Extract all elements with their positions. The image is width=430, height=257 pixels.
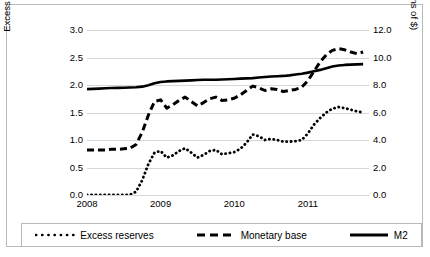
y-axis-right-tick-label: 4.0 xyxy=(373,135,413,145)
chart-frame: Excess reserves and monetary base (trill… xyxy=(6,4,423,247)
y-axis-right-ticks: 0.02.04.06.08.010.012.0 xyxy=(373,30,417,195)
legend-item-monetary-base: Monetary base xyxy=(196,230,307,241)
y-axis-right-tick-label: 8.0 xyxy=(373,80,413,90)
y-axis-left-title-text: Excess reserves and monetary base (trill… xyxy=(1,0,25,35)
chart-legend: Excess reserves Monetary base M2 xyxy=(21,223,422,247)
gridline xyxy=(87,195,369,196)
y-axis-left-tick-label: 1.0 xyxy=(43,135,83,145)
series-line-m2 xyxy=(87,64,363,89)
legend-label-excess-reserves: Excess reserves xyxy=(80,230,153,241)
legend-item-excess-reserves: Excess reserves xyxy=(35,230,153,241)
y-axis-left-tick-label: 2.0 xyxy=(43,80,83,90)
legend-item-m2: M2 xyxy=(349,230,408,241)
legend-key-solid-icon xyxy=(349,231,389,239)
chart-figure: Excess reserves and monetary base (trill… xyxy=(0,0,430,257)
y-axis-left-tick-label: 1.5 xyxy=(43,108,83,118)
legend-label-m2: M2 xyxy=(394,230,408,241)
plot-area xyxy=(87,30,369,195)
series-line-excess-reserves xyxy=(87,107,363,195)
series-canvas xyxy=(87,30,369,195)
legend-key-dashed-icon xyxy=(196,231,236,239)
series-line-monetary-base xyxy=(87,49,363,150)
x-axis-tick-label: 2008 xyxy=(57,198,117,209)
y-axis-right-tick-label: 12.0 xyxy=(373,25,413,35)
legend-key-dotted-icon xyxy=(35,231,75,239)
y-axis-left-tick-label: 0.5 xyxy=(43,163,83,173)
y-axis-left-title: Excess reserves and monetary base (trill… xyxy=(1,0,25,35)
y-axis-left-tick-label: 3.0 xyxy=(43,25,83,35)
y-axis-right-tick-label: 10.0 xyxy=(373,53,413,63)
y-axis-right-tick-label: 6.0 xyxy=(373,108,413,118)
x-axis-tick-label: 2009 xyxy=(131,198,191,209)
y-axis-right-tick-label: 2.0 xyxy=(373,163,413,173)
x-axis-tick-label: 2010 xyxy=(204,198,264,209)
legend-label-monetary-base: Monetary base xyxy=(241,230,307,241)
y-axis-left-tick-label: 2.5 xyxy=(43,53,83,63)
x-axis-ticks: 2008200920102011 xyxy=(87,198,369,212)
y-axis-left-ticks: 0.00.51.01.52.02.53.0 xyxy=(39,30,83,195)
x-axis-tick-label: 2011 xyxy=(278,198,338,209)
y-axis-right-tick-label: 0.0 xyxy=(373,190,413,200)
